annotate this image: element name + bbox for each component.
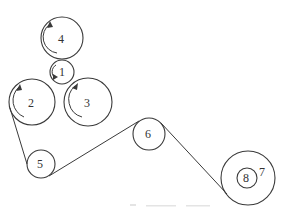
roller-label-2: 2 [28, 96, 34, 110]
belt-segment-6-to-7 [161, 123, 227, 194]
roller-label-6: 6 [145, 127, 151, 141]
roller-label-8: 8 [243, 171, 249, 185]
roller-3: 3 [64, 78, 112, 126]
belt-segment-5-to-6 [49, 121, 139, 176]
rotation-arrow-icon [43, 24, 57, 53]
roller-label-1: 1 [59, 65, 65, 79]
roller-belt-diagram: 4 1 2 3 5 6 7 8 [0, 0, 285, 209]
arrow-head-icon [53, 74, 58, 80]
roller-2: 2 [9, 79, 55, 125]
roller-label-3: 3 [84, 96, 90, 110]
roller-label-4: 4 [58, 32, 64, 46]
roller-6: 6 [133, 118, 165, 150]
roller-label-7: 7 [259, 165, 265, 179]
roller-5: 5 [27, 150, 55, 178]
roller-4: 4 [41, 17, 83, 59]
roller-label-5: 5 [37, 157, 43, 171]
belt-segment-2-to-5 [10, 108, 27, 164]
rotation-arrow-icon [13, 87, 24, 117]
caption-fragment [130, 204, 210, 207]
roller-1: 1 [50, 60, 74, 84]
rotation-arrow-icon [69, 86, 82, 117]
roller-8: 8 [237, 168, 257, 188]
